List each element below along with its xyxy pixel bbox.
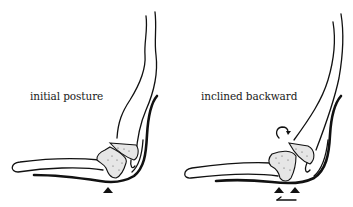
coccyx-outline [306, 163, 310, 172]
translation-arrow-icon [277, 197, 296, 200]
figure-label-initial: initial posture [30, 90, 103, 102]
coccyx-outline [131, 160, 135, 168]
support-triangle [103, 187, 113, 193]
figure-initial-posture: initial posture [0, 0, 176, 207]
seated-pelvis-drawing-initial [0, 0, 176, 207]
seated-pelvis-drawing-inclined [176, 0, 353, 207]
figure-label-inclined: inclined backward [201, 90, 297, 102]
thigh-outline [12, 159, 103, 172]
rotation-arrow-icon [277, 127, 291, 138]
support-triangle-1 [274, 187, 284, 193]
trunk-front-outline [294, 22, 334, 140]
support-triangle-2 [290, 187, 300, 193]
thigh-outline [185, 163, 278, 178]
figure-inclined-backward: inclined backward [176, 0, 353, 207]
